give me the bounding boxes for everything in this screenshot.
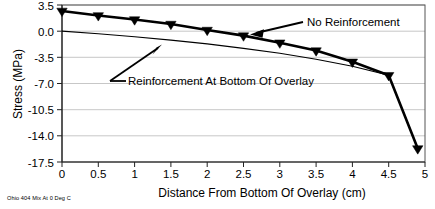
y-tick-label-3: -7.0 — [34, 78, 54, 90]
x-tick-label-1: 0.5 — [90, 168, 106, 180]
y-tick-label-6: -17.5 — [28, 157, 54, 169]
x-tick-label-2: 1 — [131, 168, 137, 180]
chart-canvas: 3.5 0.0 -3.5 -7.0 -10.5 -14.0 -17.5 0 0.… — [0, 0, 435, 209]
x-tick-label-5: 2.5 — [236, 168, 252, 180]
y-tick-label-2: -3.5 — [34, 52, 54, 64]
y-axis-title: Stress (MPa) — [11, 49, 25, 119]
y-tick-marks — [57, 5, 62, 162]
stress-distance-chart: 3.5 0.0 -3.5 -7.0 -10.5 -14.0 -17.5 0 0.… — [0, 0, 435, 209]
y-tick-label-1: 0.0 — [38, 26, 54, 38]
y-tick-label-4: -10.5 — [28, 104, 54, 116]
x-tick-label-8: 4 — [349, 168, 356, 180]
annotation-label-no-reinforcement: No Reinforcement — [307, 16, 400, 28]
annotation-label-reinforcement: Reinforcement At Bottom Of Overlay — [128, 75, 314, 87]
x-axis-title: Distance From Bottom Of Overlay (cm) — [158, 186, 365, 200]
x-tick-label-4: 2 — [204, 168, 210, 180]
x-tick-label-10: 5 — [422, 168, 428, 180]
x-tick-label-3: 1.5 — [163, 168, 179, 180]
y-axis-tick-labels: 3.5 0.0 -3.5 -7.0 -10.5 -14.0 -17.5 — [28, 0, 54, 169]
y-tick-label-5: -14.0 — [28, 130, 54, 142]
y-tick-label-0: 3.5 — [38, 0, 54, 12]
x-tick-marks — [62, 162, 425, 167]
x-tick-label-7: 3.5 — [308, 168, 324, 180]
x-tick-label-6: 3 — [277, 168, 283, 180]
footnote: Ohio 404 Mix At 0 Deg C — [7, 195, 71, 201]
x-tick-label-9: 4.5 — [381, 168, 397, 180]
x-axis-tick-labels: 0 0.5 1 1.5 2 2.5 3 3.5 4 4.5 5 — [59, 168, 428, 180]
x-tick-label-0: 0 — [59, 168, 65, 180]
